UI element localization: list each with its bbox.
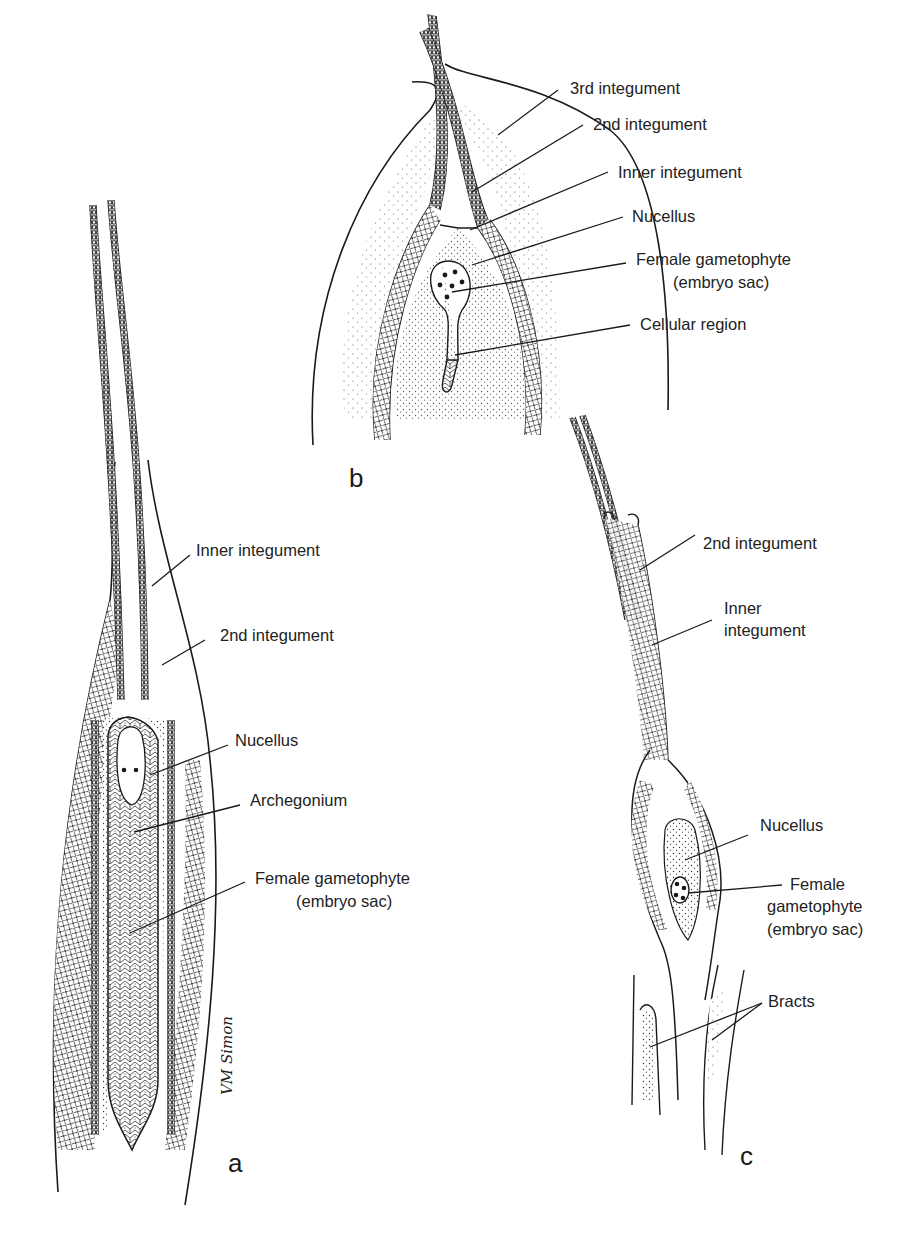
label-c-inner-line1: Inner bbox=[724, 600, 762, 617]
label-c-nucellus: Nucellus bbox=[760, 817, 823, 834]
label-a-embryo-sac: (embryo sac) bbox=[296, 893, 392, 910]
label-a-archegonium: Archegonium bbox=[250, 792, 347, 809]
panel-letter-b: b bbox=[349, 465, 363, 491]
label-a-female-gametophyte: Female gametophyte bbox=[255, 870, 410, 887]
panel-a-drawing bbox=[54, 200, 245, 1205]
label-b-second-integument: 2nd integument bbox=[593, 116, 707, 133]
label-b-embryo-sac: (embryo sac) bbox=[673, 274, 769, 291]
label-b-cellular-region: Cellular region bbox=[640, 316, 746, 333]
label-c-bracts: Bracts bbox=[768, 993, 815, 1010]
ovule-diagram-figure bbox=[0, 0, 918, 1236]
label-c-female-line1: Female bbox=[790, 876, 845, 893]
artist-signature: VM Simon bbox=[218, 1016, 236, 1095]
label-c-embryo-sac: (embryo sac) bbox=[767, 921, 863, 938]
panel-letter-a: a bbox=[228, 1150, 242, 1176]
label-c-inner-line2: integument bbox=[724, 622, 806, 639]
label-a-second-integument: 2nd integument bbox=[220, 627, 334, 644]
label-b-female-gametophyte: Female gametophyte bbox=[636, 251, 791, 268]
label-b-inner-integument: Inner integument bbox=[618, 164, 742, 181]
label-c-second-integument: 2nd integument bbox=[703, 535, 817, 552]
label-b-third-integument: 3rd integument bbox=[570, 80, 680, 97]
label-b-nucellus: Nucellus bbox=[632, 208, 695, 225]
panel-letter-c: c bbox=[740, 1143, 753, 1169]
label-a-inner-integument: Inner integument bbox=[196, 542, 320, 559]
label-c-female-line2: gametophyte bbox=[767, 898, 862, 915]
label-a-nucellus: Nucellus bbox=[235, 732, 298, 749]
panel-c-drawing bbox=[570, 415, 782, 1155]
